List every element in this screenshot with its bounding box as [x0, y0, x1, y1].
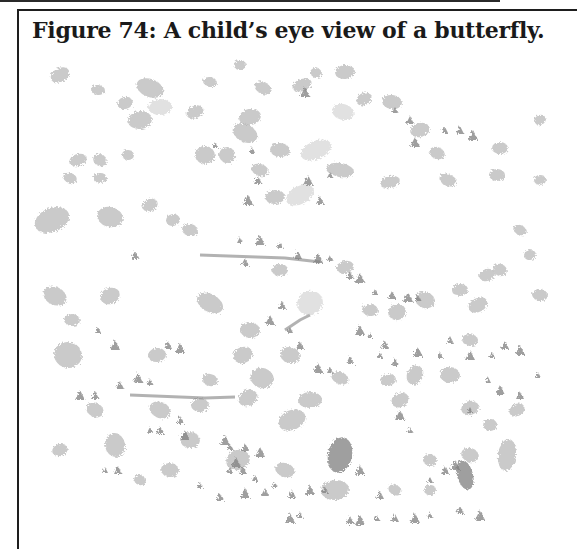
paint-blob	[51, 442, 70, 458]
paint-blob	[98, 285, 123, 307]
dark-paint-fleck	[294, 251, 302, 259]
paint-blob	[31, 202, 74, 238]
paint-blob	[64, 314, 80, 326]
dark-paint-fleck	[241, 258, 249, 266]
paint-blob	[140, 196, 160, 214]
paint-blob	[95, 204, 125, 230]
paint-blob	[381, 94, 403, 111]
dark-paint-fleck	[261, 488, 269, 496]
paint-blob	[379, 373, 397, 388]
figure-caption: Figure 74: A child’s eye view of a butte…	[32, 17, 544, 43]
dark-paint-fleck	[285, 513, 295, 523]
dark-paint-fleck	[147, 379, 153, 385]
paint-blob	[379, 174, 401, 190]
paint-blob	[298, 392, 323, 409]
dark-paint-fleck	[376, 491, 384, 499]
dark-paint-fleck	[305, 485, 315, 495]
top-rule	[0, 0, 500, 2]
dark-paint-fleck	[516, 391, 524, 399]
paint-blob	[250, 162, 271, 179]
dark-paint-fleck	[413, 347, 423, 357]
paint-blob	[362, 304, 378, 317]
dark-paint-fleck	[278, 301, 286, 309]
paint-blob	[423, 484, 436, 496]
dark-paint-fleck	[243, 195, 253, 205]
paint-blob	[496, 438, 518, 472]
paint-blob	[247, 364, 276, 391]
paint-blob	[330, 102, 355, 123]
paint-blob	[451, 283, 468, 297]
dark-paint-fleck	[442, 127, 448, 133]
paint-blob	[62, 171, 78, 185]
paint-blob	[389, 390, 411, 411]
paint-blob	[523, 249, 537, 262]
brush-stroke	[130, 395, 235, 398]
dark-paint-fleck	[495, 385, 505, 395]
dark-paint-fleck	[277, 242, 283, 248]
dark-paint-fleck	[176, 416, 184, 424]
dark-paint-fleck	[133, 373, 143, 383]
paint-blob	[147, 398, 173, 421]
paint-blob	[40, 283, 69, 309]
dark-paint-fleck	[303, 175, 313, 185]
paint-blob	[68, 152, 89, 169]
dark-paint-fleck	[475, 510, 485, 520]
dark-paint-fleck	[237, 237, 243, 243]
paint-blob	[275, 405, 309, 435]
paint-blob	[427, 144, 446, 161]
paint-blob	[181, 223, 199, 238]
dark-paint-fleck	[355, 515, 365, 525]
paint-blob	[440, 366, 461, 383]
paint-blob	[90, 84, 105, 96]
dark-paint-fleck	[252, 475, 258, 481]
paint-blob	[133, 473, 148, 486]
paint-blob	[127, 109, 154, 131]
dark-paint-fleck	[313, 363, 323, 373]
dark-paint-fleck	[255, 235, 265, 245]
paint-blob	[239, 321, 261, 339]
paint-blob	[291, 76, 314, 94]
paint-blob	[191, 398, 209, 412]
dark-paint-fleck	[147, 427, 153, 433]
paint-blob	[217, 145, 237, 165]
dark-paint-fleck	[406, 116, 414, 124]
dark-paint-fleck	[114, 466, 122, 474]
paint-blob	[335, 259, 355, 274]
dark-paint-fleck	[91, 391, 99, 399]
brush-stroke	[285, 315, 310, 330]
dark-paint-fleck	[220, 435, 230, 445]
dark-paint-fleck	[254, 176, 262, 184]
brush-stroke	[200, 255, 320, 262]
dark-paint-fleck	[391, 358, 399, 366]
dark-paint-fleck	[327, 367, 333, 373]
paint-blob	[103, 431, 127, 458]
dark-paint-fleck	[403, 292, 413, 302]
dark-paint-fleck	[388, 291, 396, 299]
dark-paint-fleck	[175, 343, 185, 353]
dark-paint-fleck	[374, 515, 380, 521]
paint-blob	[193, 288, 226, 317]
paint-blob	[165, 213, 181, 228]
paint-blob	[122, 149, 135, 160]
dark-paint-fleck	[355, 325, 365, 335]
paint-blob	[298, 135, 335, 164]
paint-blob	[534, 175, 546, 185]
dark-paint-fleck	[327, 255, 333, 261]
paint-blob	[422, 452, 438, 467]
dark-paint-fleck	[95, 327, 101, 333]
dark-paint-fleck	[535, 372, 541, 378]
dark-paint-fleck	[485, 377, 491, 383]
dark-paint-fleck	[515, 345, 525, 355]
dark-paint-fleck	[212, 142, 218, 148]
paint-blob	[482, 418, 497, 431]
paint-blob	[453, 458, 476, 491]
paint-blob	[403, 363, 426, 388]
paint-blob	[270, 142, 291, 157]
dark-paint-fleck	[255, 447, 265, 457]
paint-blob	[354, 90, 374, 108]
paint-blob	[437, 171, 458, 189]
dark-paint-fleck	[456, 126, 464, 134]
dark-paint-fleck	[249, 147, 255, 153]
paint-blob	[466, 294, 490, 316]
dark-paint-fleck	[313, 253, 323, 263]
